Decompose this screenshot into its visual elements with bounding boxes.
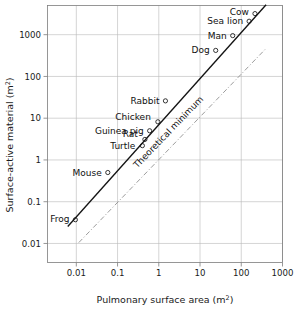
y-axis-ticks [44,35,48,244]
y-tick-label: 1000 [19,30,41,40]
x-tick-label: 1000 [272,268,294,278]
data-point-label: Mouse [73,168,103,178]
x-tick-label: 10 [195,268,206,278]
x-axis-title: Pulmonary surface area (m2) [97,294,234,305]
data-point-label: Cow [230,7,249,17]
x-tick-label: 1 [156,268,161,278]
log-log-scatter-chart: 0.010.11101001000 0.010.11101001000 Frog… [0,0,300,311]
data-point-label: Man [208,31,227,41]
y-tick-label: 1 [36,155,41,165]
figure-container: 0.010.11101001000 0.010.11101001000 Frog… [0,0,300,311]
data-point-label: Sea lion [207,16,243,26]
data-point-label: Dog [192,45,210,55]
x-axis-tick-labels: 0.010.11101001000 [67,268,294,278]
y-tick-label: 0.01 [22,239,41,249]
y-tick-label: 10 [30,113,41,123]
data-point-label: Turtle [109,141,136,151]
data-point-label: Guinea pig [95,126,144,136]
data-point-label: Chicken [115,112,151,122]
y-tick-label: 100 [25,72,41,82]
data-point-label: Frog [50,214,69,224]
y-tick-label: 0.1 [27,197,41,207]
x-axis-ticks [76,263,282,267]
x-tick-label: 100 [233,268,249,278]
data-point-label: Rabbit [130,96,159,106]
x-tick-label: 0.01 [67,268,86,278]
x-tick-label: 0.1 [111,268,125,278]
y-axis-tick-labels: 0.010.11101001000 [19,30,41,249]
y-axis-title: Surface-active material (m2) [4,78,15,213]
